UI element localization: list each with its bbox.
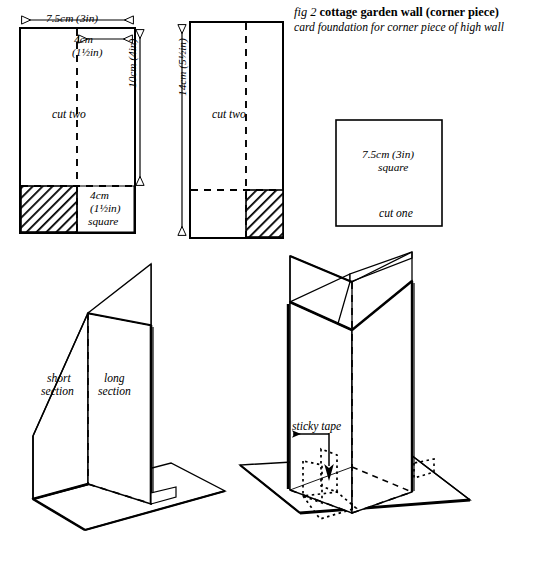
label-inner-4cm-inches: (1½in) — [72, 46, 102, 59]
assembly-right-drawing — [240, 252, 470, 519]
label-height-14cm: 14cm (5½in) — [176, 38, 189, 96]
label-tab-square: square — [88, 215, 118, 228]
figure-title-text: cottage garden wall (corner piece) — [319, 5, 498, 19]
label-long-section-line1: long — [104, 372, 125, 385]
label-square-size: 7.5cm (3in) — [362, 148, 414, 161]
label-long-section-line2: section — [98, 385, 131, 398]
label-sticky-tape: sticky tape — [292, 420, 341, 433]
label-cut-one: cut one — [379, 207, 413, 220]
label-cut-two-piece1: cut two — [52, 108, 86, 121]
figure-title: fig 2 cottage garden wall (corner piece) — [294, 6, 499, 20]
figure-page: fig 2 cottage garden wall (corner piece)… — [0, 0, 535, 562]
label-width-7_5cm: 7.5cm (3in) — [46, 12, 98, 25]
label-height-10cm: 10cm (4in) — [126, 39, 139, 88]
label-short-section-line1: short — [47, 372, 71, 385]
piece-2-short-section — [182, 22, 283, 238]
panel-right — [352, 281, 412, 513]
label-tab-4cm: 4cm — [90, 189, 109, 202]
panel-short-section — [33, 313, 88, 499]
figure-number: fig 2 — [294, 5, 316, 19]
label-short-section-line2: section — [41, 385, 74, 398]
label-square-word: square — [378, 161, 408, 174]
label-inner-4cm: 4cm — [74, 33, 93, 46]
diagram-canvas — [0, 0, 535, 562]
figure-subtitle: card foundation for corner piece of high… — [294, 21, 504, 34]
label-cut-two-piece2: cut two — [212, 108, 246, 121]
panel-long-section — [88, 313, 151, 504]
label-tab-inches: (1½in) — [90, 202, 120, 215]
